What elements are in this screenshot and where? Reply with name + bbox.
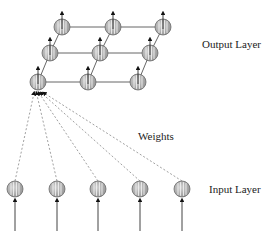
input-layer-nodes [7,181,190,231]
som-diagram [0,0,273,231]
input-node [174,181,190,197]
input-node [49,181,65,197]
input-node [132,181,148,197]
input-node [90,181,106,197]
output-layer-label: Output Layer [202,38,261,50]
weights-label: Weights [138,130,174,142]
output-layer-nodes [30,13,171,90]
input-layer-label: Input Layer [209,183,261,195]
input-node [7,181,23,197]
